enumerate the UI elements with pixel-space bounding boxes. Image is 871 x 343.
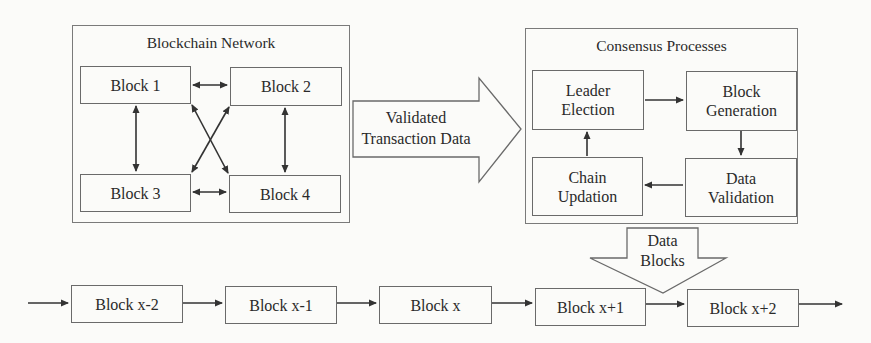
network-block-3: Block 3 — [80, 174, 191, 212]
leader-election-line1: Leader — [566, 81, 610, 100]
chain-block-x-plus-1: Block x+1 — [535, 288, 646, 326]
chain-updation-step: Chain Updation — [532, 157, 643, 216]
chain-block-x-minus-1: Block x-1 — [225, 286, 337, 324]
data-validation-line2: Validation — [708, 188, 774, 207]
consensus-processes-title: Consensus Processes — [525, 37, 798, 55]
block-generation-step: Block Generation — [686, 71, 797, 131]
leader-election-step: Leader Election — [532, 70, 644, 130]
network-block-4: Block 4 — [229, 175, 341, 213]
chain-updation-line1: Chain — [568, 168, 606, 187]
validated-transaction-label: Validated Transaction Data — [353, 107, 479, 149]
chain-updation-line2: Updation — [558, 187, 618, 206]
chain-block-x-plus-2: Block x+2 — [687, 289, 799, 327]
block-generation-line2: Generation — [706, 101, 777, 120]
leader-election-line2: Election — [561, 100, 614, 119]
blockchain-network-title: Blockchain Network — [72, 34, 350, 52]
chain-block-x-minus-2: Block x-2 — [71, 285, 183, 323]
data-validation-line1: Data — [726, 169, 756, 188]
data-blocks-label: Data Blocks — [627, 231, 698, 271]
chain-block-x: Block x — [379, 286, 492, 324]
block-generation-line1: Block — [722, 82, 760, 101]
network-block-2: Block 2 — [230, 67, 342, 106]
validated-transaction-line1: Validated — [353, 107, 479, 128]
validated-transaction-line2: Transaction Data — [353, 128, 479, 149]
network-block-1: Block 1 — [80, 66, 191, 104]
data-blocks-line1: Data — [627, 231, 698, 251]
data-validation-step: Data Validation — [685, 158, 797, 217]
data-blocks-line2: Blocks — [627, 251, 698, 271]
